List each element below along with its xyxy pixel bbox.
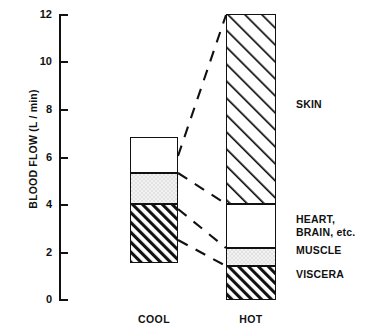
connector-skin-bottom [178,173,226,204]
connector-heart-bottom [178,209,226,248]
connector-muscle-bottom [178,240,226,266]
y-tick-label-2: 2 [24,247,52,258]
y-tick-label-6: 6 [24,152,52,163]
legend-label-viscera: VISCERA [296,268,344,281]
y-tick-12 [59,14,68,16]
bar-cool-segment-muscle [130,173,178,204]
y-tick-0 [59,299,68,301]
bar-hot-segment-viscera [226,266,276,300]
blood-flow-stacked-bar-chart: BLOOD FLOW (L / min) 12 10 8 6 4 2 0 [0,0,371,336]
bar-cool [130,14,178,300]
y-tick-2 [59,252,68,254]
y-tick-label-0: 0 [24,294,52,305]
legend-label-skin: SKIN [296,98,322,111]
bar-cool-segment-viscera [130,204,178,263]
y-tick-label-4: 4 [24,199,52,210]
legend-label-muscle: MUSCLE [296,244,342,257]
segment-connector-lines [0,0,371,336]
bar-hot-segment-muscle [226,248,276,266]
x-category-label-hot: HOT [221,313,281,325]
x-category-label-cool: COOL [124,313,184,325]
y-tick-label-12: 12 [24,9,52,20]
connector-skin-top [178,15,226,156]
y-tick-10 [59,61,68,63]
y-axis-label: BLOOD FLOW (L / min) [27,54,39,244]
y-tick-label-8: 8 [24,104,52,115]
bar-hot [226,14,276,300]
bar-hot-segment-heart-brain [226,204,276,248]
legend-label-heart-brain: HEART, BRAIN, etc. [296,213,355,238]
y-tick-4 [59,204,68,206]
bar-hot-segment-skin [226,14,276,204]
y-tick-6 [59,157,68,159]
y-tick-8 [59,109,68,111]
y-tick-label-10: 10 [24,56,52,67]
bar-cool-segment-heart-brain [130,137,178,173]
